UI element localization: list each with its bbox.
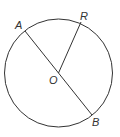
- label-o: O: [49, 74, 58, 86]
- label-r: R: [80, 10, 88, 22]
- circle-diagram: A R O B: [0, 0, 120, 137]
- label-b: B: [92, 116, 99, 128]
- label-a: A: [14, 19, 22, 31]
- radius-or: [59, 22, 82, 73]
